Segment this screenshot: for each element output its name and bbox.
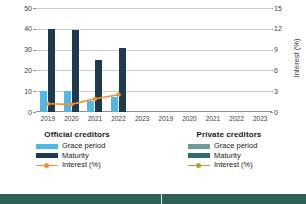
bars [107, 8, 131, 112]
bar-group [201, 8, 225, 112]
x-axis-labels-official: 20192020202120222023 [36, 114, 154, 124]
panel-private-creditors [154, 8, 272, 112]
bars [201, 8, 225, 112]
legend-item[interactable]: Interest (%) [2, 161, 152, 169]
legend-item[interactable]: Grace period [154, 142, 304, 150]
bar-group [36, 8, 60, 112]
y-axis-right-title: Interest (%) [292, 39, 301, 78]
bar-maturity [48, 29, 55, 112]
x-tick-label: 2020 [60, 114, 84, 124]
legend-private-creditors: Private creditors Grace periodMaturityIn… [154, 130, 304, 171]
x-tick-label: 2023 [248, 114, 272, 124]
bar-group [154, 8, 178, 112]
x-tick-label: 2019 [154, 114, 178, 124]
legend-item[interactable]: Maturity [154, 152, 304, 160]
bar-grace [111, 97, 118, 112]
legend-label: Maturity [214, 152, 241, 160]
bars [60, 8, 84, 112]
x-tick-label: 2019 [36, 114, 60, 124]
panel-official-creditors [36, 8, 154, 112]
bar-maturity [95, 60, 102, 112]
y-tick-label: 50 [12, 5, 32, 12]
y-tick-mark [270, 112, 273, 113]
x-tick-label: 2021 [201, 114, 225, 124]
x-axis-labels-private: 20192020202120222023 [154, 114, 272, 124]
x-tick-label: 2023 [130, 114, 154, 124]
y-tick-label: 40 [12, 25, 32, 32]
legend-color-swatch [36, 144, 58, 149]
legend-label: Grace period [214, 142, 257, 150]
legend-title-official: Official creditors [2, 130, 152, 139]
legend-label: Interest (%) [214, 161, 253, 169]
legend-item[interactable]: Interest (%) [154, 161, 304, 169]
bar-group [248, 8, 272, 112]
x-tick-label: 2020 [178, 114, 202, 124]
bars [83, 8, 107, 112]
bar-groups [36, 8, 154, 112]
bar-grace [64, 91, 71, 112]
bar-groups [154, 8, 272, 112]
legend-label: Grace period [62, 142, 105, 150]
y-tick-label: 0 [12, 109, 32, 116]
legend-label: Maturity [62, 152, 89, 160]
legend-items-official: Grace periodMaturityInterest (%) [2, 142, 152, 169]
bottom-color-strip [0, 194, 306, 204]
bar-group [225, 8, 249, 112]
plot-area-private [154, 8, 272, 112]
bars [130, 8, 154, 112]
bar-group [130, 8, 154, 112]
bars [154, 8, 178, 112]
legend-label: Interest (%) [62, 161, 101, 169]
legend-item[interactable]: Maturity [2, 152, 152, 160]
bars [36, 8, 60, 112]
x-tick-label: 2022 [225, 114, 249, 124]
y-tick-label: 12 [274, 25, 294, 32]
plot-area-official [36, 8, 154, 112]
bar-grace [87, 101, 94, 112]
bars [248, 8, 272, 112]
bar-group [107, 8, 131, 112]
legend-item[interactable]: Grace period [2, 142, 152, 150]
legend-line-swatch [36, 163, 58, 168]
x-tick-label: 2021 [83, 114, 107, 124]
legend-items-private: Grace periodMaturityInterest (%) [154, 142, 304, 169]
bar-group [83, 8, 107, 112]
y-tick-label: 15 [274, 5, 294, 12]
bar-grace [40, 91, 47, 112]
x-tick-label: 2022 [107, 114, 131, 124]
legend-title-private: Private creditors [154, 130, 304, 139]
bars [225, 8, 249, 112]
y-axis-left: 50403020100 [10, 8, 32, 112]
legend-line-swatch [188, 163, 210, 168]
bar-group [178, 8, 202, 112]
y-tick-label: 30 [12, 46, 32, 53]
y-tick-label: 0 [274, 109, 294, 116]
y-tick-label: 10 [12, 88, 32, 95]
legend-color-swatch [188, 153, 210, 158]
legend-color-swatch [36, 153, 58, 158]
y-tick-label: 20 [12, 67, 32, 74]
bar-group [60, 8, 84, 112]
bottom-strip-divider [161, 194, 162, 204]
bar-maturity [72, 30, 79, 112]
y-tick-mark [33, 112, 36, 113]
legend-color-swatch [188, 144, 210, 149]
bar-maturity [119, 48, 126, 112]
y-tick-label: 3 [274, 88, 294, 95]
chart-figure: 50403020100 Years 15129630 Interest (%) … [0, 0, 306, 204]
legend-official-creditors: Official creditors Grace periodMaturityI… [2, 130, 152, 171]
bars [178, 8, 202, 112]
